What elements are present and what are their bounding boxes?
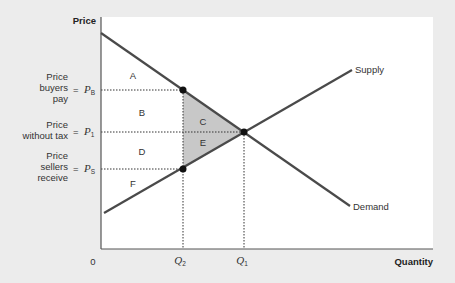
tax-incidence-diagram: Price Quantity 0 Supply Demand Price buy… [0,0,455,283]
ps-desc-line1: Price [46,150,68,161]
point-buyers-price [180,87,187,94]
q1-label: Q1 [236,254,248,267]
region-b-label: B [139,107,145,118]
ps-desc-line3: receive [37,172,68,183]
price-level-pb: Price buyers pay = PB [39,71,95,104]
ps-equals: = [73,163,79,174]
price-level-p1: Price without tax = P1 [22,119,95,141]
p1-symbol: P1 [83,125,95,138]
pb-equals: = [73,84,79,95]
pb-desc-line2: buyers [39,82,68,93]
demand-label: Demand [353,201,389,212]
supply-label: Supply [355,64,384,75]
p1-desc-line1: Price [46,119,68,130]
pb-symbol: PB [83,83,95,96]
x-axis-label: Quantity [394,256,433,267]
point-sellers-price [180,166,187,173]
region-f-label: F [130,178,136,189]
pb-desc-line1: Price [46,71,68,82]
plot-area [101,17,433,249]
point-equilibrium [241,129,248,136]
diagram-container: Price Quantity 0 Supply Demand Price buy… [0,0,455,283]
y-axis-label: Price [73,15,96,26]
q2-label: Q2 [174,254,186,267]
origin-label: 0 [90,256,95,267]
region-d-label: D [139,146,146,157]
region-e-label: E [200,137,206,148]
p1-equals: = [73,126,79,137]
ps-desc-line2: sellers [41,161,69,172]
price-level-ps: Price sellers receive = PS [37,150,95,183]
region-a-label: A [130,70,137,81]
p1-desc-line2: without tax [22,130,69,141]
ps-symbol: PS [83,162,96,175]
pb-desc-line3: pay [53,93,69,104]
region-c-label: C [200,116,207,127]
